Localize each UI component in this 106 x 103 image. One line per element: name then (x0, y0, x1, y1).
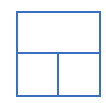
bottom-left-panel (18, 54, 57, 95)
vertical-divider (57, 52, 59, 97)
bottom-right-panel (59, 54, 99, 95)
top-panel (18, 13, 99, 52)
